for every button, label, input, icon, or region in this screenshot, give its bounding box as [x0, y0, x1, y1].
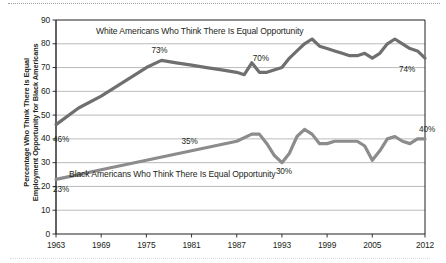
series-line-0 — [56, 39, 425, 125]
data-point-label: 35% — [182, 137, 198, 146]
y-tick-label: 80 — [28, 38, 50, 48]
data-point-label: 23% — [53, 185, 69, 194]
x-tick-label: 1969 — [81, 240, 121, 250]
series-lines — [56, 39, 425, 179]
y-tick-label: 10 — [28, 205, 50, 215]
gridlines — [56, 44, 425, 210]
data-point-label: 70% — [253, 54, 269, 63]
plot-canvas — [0, 0, 446, 263]
data-point-label: 74% — [399, 65, 415, 74]
chart-figure: Percentage Who Think There Is Equal Empl… — [0, 0, 446, 263]
x-tick-label: 1981 — [172, 240, 212, 250]
y-tick-label: 60 — [28, 86, 50, 96]
series-annotation-black: Black Americans Who Think There Is Equal… — [69, 169, 276, 179]
y-tick-label: 50 — [28, 110, 50, 120]
y-tick-label: 30 — [28, 157, 50, 167]
x-tick-label: 2012 — [405, 240, 445, 250]
data-point-label: 30% — [276, 167, 292, 176]
series-annotation-white: White Americans Who Think There Is Equal… — [96, 26, 304, 36]
axis-lines — [56, 20, 425, 234]
y-tick-label: 70 — [28, 62, 50, 72]
y-tick-label: 0 — [28, 229, 50, 239]
x-tick-label: 1993 — [262, 240, 302, 250]
data-point-label: 40% — [419, 125, 435, 134]
x-tick-label: 2005 — [352, 240, 392, 250]
y-tick-label: 90 — [28, 15, 50, 25]
y-tick-label: 40 — [28, 133, 50, 143]
data-point-label: 73% — [151, 46, 167, 55]
x-tick-label: 1999 — [307, 240, 347, 250]
y-tick-label: 20 — [28, 181, 50, 191]
data-point-label: 46% — [53, 135, 69, 144]
x-tick-label: 1963 — [36, 240, 76, 250]
x-tick-label: 1975 — [126, 240, 166, 250]
x-tick-label: 1987 — [217, 240, 257, 250]
